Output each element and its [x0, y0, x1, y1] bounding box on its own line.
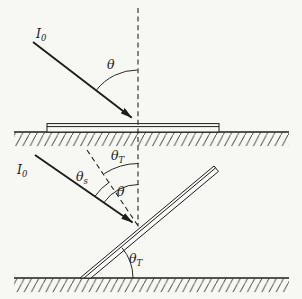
tilt-angle-arc-upper: [104, 164, 138, 174]
incidence-angle-arc-top: [96, 70, 137, 90]
incident-ray-label-top: I0: [35, 26, 47, 43]
ground-hatching-bottom: [14, 279, 289, 293]
incidence-angle-label-top: θ: [107, 57, 115, 72]
surface-normal-angle-label: θs: [76, 169, 89, 186]
surface-normal-angle-arc: [95, 182, 110, 196]
flat-plate: [47, 124, 219, 132]
panel-bottom-tilted-plate: I0 θs θT θ θT: [14, 148, 289, 292]
incident-ray-top: [33, 42, 132, 118]
tilt-angle-upper-label: θT: [111, 148, 126, 165]
tilt-angle-lower-label: θT: [129, 251, 144, 268]
ground-hatching-top: [14, 133, 289, 147]
incident-ray-label-bottom: I0: [16, 162, 28, 179]
incidence-angle-label-bottom: θ: [117, 184, 125, 199]
optics-diagram: I0 θ I0 θs θT θ θT: [0, 0, 302, 299]
panel-top-flat-plate: I0 θ: [14, 26, 289, 146]
tilted-plate-inner-line: [84, 168, 216, 278]
